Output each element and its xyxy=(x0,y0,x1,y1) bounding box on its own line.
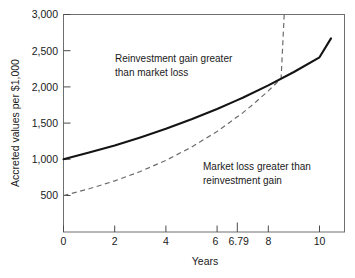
y-tick-label-3000: 3,000 xyxy=(32,8,58,20)
x-axis-tick-labels: 0 2 4 6 6.79 8 10 xyxy=(61,235,326,247)
x-axis-title: Years xyxy=(192,255,218,267)
upper-region-label: Reinvestment gain greater than market lo… xyxy=(115,53,233,78)
plot-frame xyxy=(64,15,345,233)
x-axis-ticks xyxy=(64,223,320,233)
lower-region-label-line-1: Market loss greater than xyxy=(203,161,311,172)
y-tick-label-1000: 1,000 xyxy=(32,153,58,165)
x-tick-label-4: 4 xyxy=(163,235,169,247)
x-tick-label-2: 2 xyxy=(112,235,118,247)
y-tick-label-1500: 1,500 xyxy=(32,117,58,129)
y-tick-label-500: 500 xyxy=(40,189,58,201)
x-tick-label-8: 8 xyxy=(265,235,271,247)
x-tick-label-6: 6 xyxy=(212,235,218,247)
lower-region-label-line-2: reinvestment gain xyxy=(203,175,282,186)
upper-region-label-line-1: Reinvestment gain greater xyxy=(115,53,233,64)
x-tick-label-10: 10 xyxy=(314,235,326,247)
accreted-values-line-chart: 3,000 2,500 2,000 1,500 1,000 500 0 2 4 … xyxy=(0,0,355,278)
y-tick-label-2000: 2,000 xyxy=(32,81,58,93)
x-tick-label-6-79: 6.79 xyxy=(228,235,249,247)
y-axis-title: Accreted values per $1,000 xyxy=(9,59,21,187)
lower-region-label: Market loss greater than reinvestment ga… xyxy=(203,161,311,186)
y-tick-label-2500: 2,500 xyxy=(32,45,58,57)
y-axis-ticks xyxy=(64,15,71,196)
x-tick-label-0: 0 xyxy=(61,235,67,247)
y-axis-tick-labels: 3,000 2,500 2,000 1,500 1,000 500 xyxy=(32,8,58,201)
chart-figure: 3,000 2,500 2,000 1,500 1,000 500 0 2 4 … xyxy=(0,0,355,278)
upper-region-label-line-2: than market loss xyxy=(115,67,188,78)
